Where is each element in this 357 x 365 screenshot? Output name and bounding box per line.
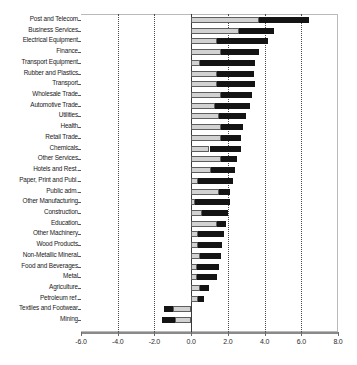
category-label: Transport: [52, 79, 78, 86]
bar-segment-dark: [200, 253, 220, 259]
bar-segment-dark: [202, 210, 228, 216]
bar-segment-dark: [197, 264, 219, 270]
bar-segment-dark: [259, 17, 309, 23]
bar-segment-dark: [221, 124, 243, 130]
category-tick: [78, 245, 81, 246]
bar-segment-dark: [221, 92, 252, 98]
bar-segment-dark: [217, 38, 268, 44]
bar-segment-dark: [200, 285, 209, 291]
x-axis-tick: [265, 332, 266, 336]
bar-segment-dark: [162, 317, 175, 323]
category-label: Health: [60, 122, 78, 129]
x-axis-tick-label: -6.0: [75, 338, 86, 345]
bar-segment-dark: [217, 71, 254, 77]
category-label: Metal: [63, 272, 78, 279]
bar-segment-light: [191, 38, 217, 44]
bar-segment-dark: [219, 113, 247, 119]
category-label: Electrical Equipment: [23, 36, 78, 43]
bar-segment-light: [191, 103, 215, 109]
bar-segment-dark: [215, 103, 250, 109]
bar-segment-dark: [221, 135, 241, 141]
category-label: Other Manufacturing: [23, 197, 78, 204]
category-label: Non-Metallic Mineral: [23, 251, 78, 258]
bar-segment-light: [191, 189, 219, 195]
bar-chart: Post and TelecomBusiness ServicesElectri…: [0, 0, 357, 365]
category-label: Transport Equipment: [21, 58, 78, 65]
category-tick: [78, 63, 81, 64]
category-tick: [78, 159, 81, 160]
bar-segment-dark: [221, 49, 260, 55]
bar-segment-light: [191, 146, 209, 152]
category-tick: [78, 74, 81, 75]
bar-segment-light: [191, 113, 219, 119]
category-label: Agriculture: [49, 283, 78, 290]
category-tick: [78, 116, 81, 117]
x-axis-tick: [191, 332, 192, 336]
category-label: Business Services: [28, 26, 78, 33]
category-label: Chemicals: [50, 144, 78, 151]
x-axis-tick: [301, 332, 302, 336]
bar-segment-light: [191, 81, 217, 87]
bar-segment-dark: [198, 178, 233, 184]
bar-segment-dark: [195, 199, 230, 205]
x-axis-tick-label: 4.0: [260, 338, 269, 345]
category-tick: [78, 299, 81, 300]
x-axis-tick-label: 6.0: [297, 338, 306, 345]
gridline: [118, 14, 119, 332]
category-label: Public adm.: [46, 187, 78, 194]
category-tick: [78, 52, 81, 53]
category-tick: [78, 256, 81, 257]
category-tick: [78, 95, 81, 96]
bar-segment-light: [191, 60, 200, 66]
bar-segment-dark: [217, 81, 256, 87]
bar-segment-light: [191, 178, 198, 184]
category-tick: [78, 106, 81, 107]
category-tick: [78, 41, 81, 42]
bar-segment-light: [191, 210, 202, 216]
category-label: Rubber and Plastics: [24, 69, 78, 76]
bar-segment-dark: [239, 28, 274, 34]
x-axis-tick: [81, 332, 82, 336]
x-axis-tick-label: 2.0: [223, 338, 232, 345]
category-tick: [78, 20, 81, 21]
category-label: Mining: [60, 315, 78, 322]
category-label: Automotive Trade: [30, 101, 78, 108]
category-tick: [78, 309, 81, 310]
x-axis-tick-label: -4.0: [112, 338, 123, 345]
category-tick: [78, 202, 81, 203]
category-label: Other Services: [38, 154, 78, 161]
category-label: Petroleum ref.: [40, 294, 78, 301]
bar-segment-light: [191, 221, 217, 227]
x-axis-tick: [338, 332, 339, 336]
category-tick: [78, 84, 81, 85]
bar-segment-light: [191, 285, 200, 291]
bar-segment-light: [191, 71, 217, 77]
bar-segment-dark: [211, 167, 235, 173]
category-tick: [78, 31, 81, 32]
bar-segment-dark: [200, 60, 255, 66]
bar-segment-light: [191, 28, 239, 34]
category-label: Wholesale Trade: [32, 90, 78, 97]
bar-segment-light: [191, 49, 220, 55]
category-label: Finance: [56, 47, 78, 54]
gridline: [154, 14, 155, 332]
x-axis-tick: [118, 332, 119, 336]
bar-segment-light: [191, 92, 220, 98]
category-label: Other Machinery: [33, 229, 78, 236]
gridline: [301, 14, 302, 332]
category-tick: [78, 192, 81, 193]
bar-segment-dark: [198, 296, 204, 302]
bar-segment-light: [191, 167, 211, 173]
bar-segment-light: [191, 296, 198, 302]
category-label: Textiles and Footwear: [19, 304, 78, 311]
bar-segment-dark: [164, 306, 173, 312]
category-tick: [78, 170, 81, 171]
category-label: Hotels and Rest.: [33, 165, 78, 172]
category-tick: [78, 320, 81, 321]
x-axis-line: [81, 332, 338, 334]
category-tick: [78, 149, 81, 150]
bar-segment-light: [191, 124, 220, 130]
category-tick: [78, 127, 81, 128]
bar-segment-light: [191, 17, 259, 23]
category-tick: [78, 213, 81, 214]
